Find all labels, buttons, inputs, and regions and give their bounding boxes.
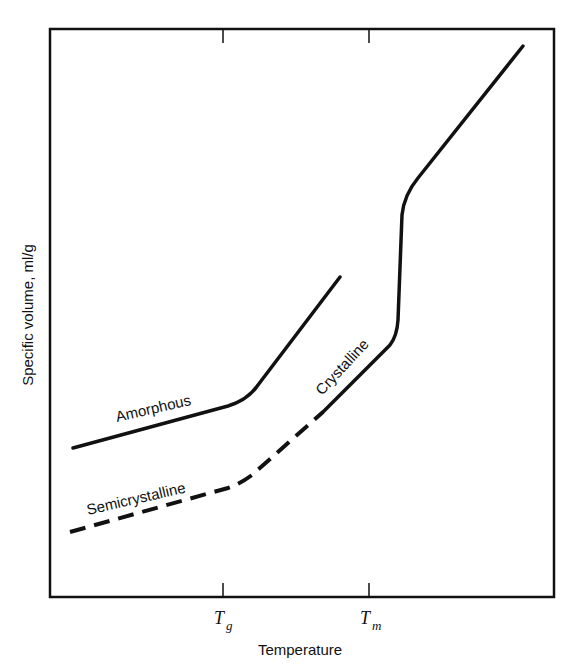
- tm-subscript: m: [372, 618, 381, 633]
- tm-label: T: [360, 608, 372, 628]
- tg-label: T: [214, 608, 226, 628]
- semicrystalline-curve: [70, 412, 323, 532]
- crystalline-label: Crystalline: [312, 335, 372, 398]
- specific-volume-diagram: Amorphous Semicrystalline Crystalline T …: [0, 0, 572, 671]
- x-axis-title: Temperature: [258, 641, 342, 658]
- semicrystalline-label: Semicrystalline: [85, 479, 187, 518]
- y-axis-title: Specific volume, ml/g: [19, 244, 36, 386]
- amorphous-curve: [73, 277, 340, 448]
- plot-frame: [50, 29, 554, 597]
- tg-subscript: g: [226, 618, 233, 633]
